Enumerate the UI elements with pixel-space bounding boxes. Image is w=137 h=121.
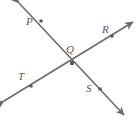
geometry-figure: P R Q T S (0, 0, 137, 121)
point-dot-r (110, 34, 113, 37)
point-label-r: R (102, 24, 109, 35)
point-label-p: P (26, 16, 33, 27)
line-tqr (4, 22, 133, 101)
intersecting-lines-diagram (0, 0, 137, 121)
point-dot-s (98, 87, 101, 90)
point-dot-p (39, 19, 42, 22)
point-label-q: Q (66, 44, 74, 55)
point-dot-t (29, 84, 32, 87)
point-dot-q (70, 61, 74, 65)
point-label-s: S (86, 83, 92, 94)
point-label-t: T (18, 71, 24, 82)
